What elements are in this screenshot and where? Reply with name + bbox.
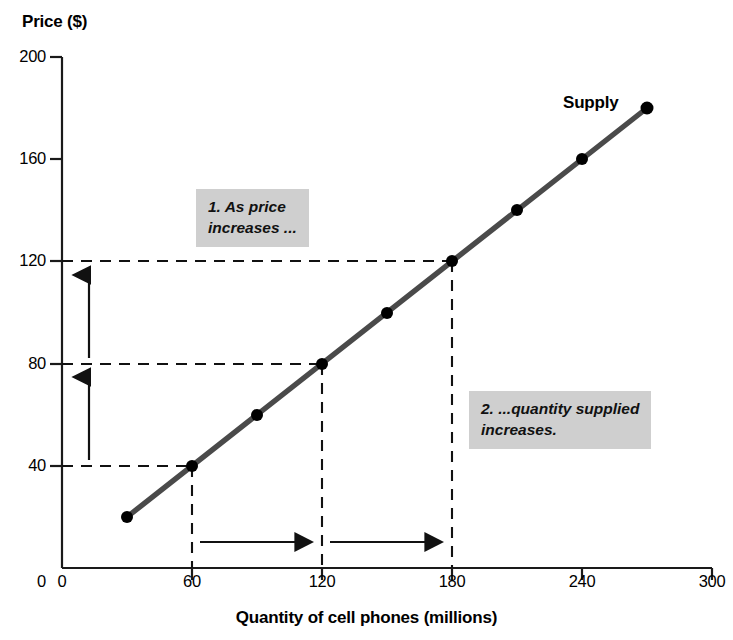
- x-tick-label-0: 0: [32, 572, 92, 591]
- horizontal-guide-lines: [62, 261, 452, 466]
- chart-canvas: [0, 0, 733, 640]
- x-tick-label-120: 120: [292, 572, 352, 591]
- x-tick-label-240: 240: [552, 572, 612, 591]
- data-point: [121, 511, 133, 523]
- x-tick-label-300: 300: [682, 572, 733, 591]
- data-point: [641, 102, 654, 115]
- annotation-callout-1: 1. As price increases ...: [196, 189, 309, 247]
- data-point: [576, 153, 588, 165]
- supply-series-label: Supply: [563, 93, 618, 113]
- data-point: [251, 409, 263, 421]
- data-point: [381, 307, 393, 319]
- supply-curve: [121, 102, 654, 524]
- vertical-guide-lines: [192, 261, 452, 568]
- y-axis-title: Price ($): [22, 12, 87, 32]
- y-tick-label-120: 120: [0, 251, 46, 270]
- annotation-callout-2: 2. ...quantity supplied increases.: [469, 391, 651, 449]
- y-tick-label-80: 80: [0, 354, 46, 373]
- data-point: [446, 255, 458, 267]
- x-axis-title: Quantity of cell phones (millions): [0, 608, 733, 628]
- y-tick-label-160: 160: [0, 149, 46, 168]
- supply-curve-figure: Price ($) Quantity of cell phones (milli…: [0, 0, 733, 640]
- data-point: [316, 358, 328, 370]
- y-tick-label-40: 40: [0, 456, 46, 475]
- y-tick-label-200: 200: [0, 47, 46, 66]
- x-tick-label-180: 180: [422, 572, 482, 591]
- x-tick-label-60: 60: [162, 572, 222, 591]
- data-point: [186, 460, 198, 472]
- data-point: [511, 204, 523, 216]
- y-axis-ticks: [50, 57, 62, 466]
